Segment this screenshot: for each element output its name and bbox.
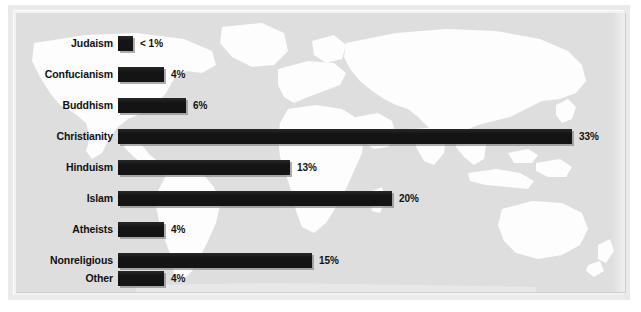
bar-container: 4% [118,67,164,82]
bar-value-label: < 1% [140,36,163,51]
category-label: Confucianism [16,62,113,86]
category-label: Atheists [16,217,113,241]
bar-container: 13% [118,160,290,175]
bar-value-label: 33% [579,129,599,144]
category-label: Christianity [16,124,113,148]
bar-value-label: 4% [171,67,185,82]
bar-row: Confucianism 4% [16,62,625,86]
bar-value-label: 13% [297,160,317,175]
bar-other [118,271,164,286]
bar-buddhism [118,98,186,113]
bar-value-label: 6% [193,98,207,113]
bar-hinduism [118,160,290,175]
category-label: Hinduism [16,155,113,179]
bar-row: Islam 20% [16,186,625,210]
category-label: Islam [16,186,113,210]
bar-container: 33% [118,129,572,144]
bar-container: 4% [118,222,164,237]
bar-row: Atheists 4% [16,217,625,241]
bar-container: < 1% [118,36,133,51]
category-label: Judaism [16,31,113,55]
bar-row: Hinduism 13% [16,155,625,179]
bar-value-label: 4% [171,222,185,237]
bar-christianity [118,129,572,144]
bar-container: 6% [118,98,186,113]
bar-judaism [118,36,133,51]
category-label: Other [16,266,113,290]
bar-value-label: 4% [171,271,185,286]
category-label: Buddhism [16,93,113,117]
bar-row: Buddhism 6% [16,93,625,117]
bar-confucianism [118,67,164,82]
bar-value-label: 20% [399,191,419,206]
bar-row: Judaism < 1% [16,31,625,55]
bar-container: 20% [118,191,392,206]
bar-container: 4% [118,271,164,286]
chart-figure: Judaism < 1% Confucianism 4% Buddhism 6%… [0,0,641,312]
bar-atheists [118,222,164,237]
plot-panel: Judaism < 1% Confucianism 4% Buddhism 6%… [16,13,626,293]
bar-islam [118,191,392,206]
bar-row: Other 4% [16,266,625,290]
bar-row: Christianity 33% [16,124,625,148]
